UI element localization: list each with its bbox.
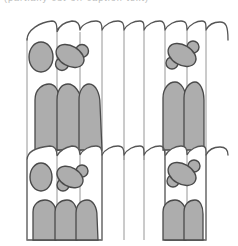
top-left-column-2 xyxy=(57,84,81,150)
bottom-row xyxy=(27,146,228,240)
top-row xyxy=(27,21,228,160)
top-right-column-1 xyxy=(163,82,186,150)
bottom-right-column-1 xyxy=(163,200,186,240)
top-left-oval-body xyxy=(29,42,53,72)
bottom-left-oval-body xyxy=(30,163,52,191)
bottom-left-column-3 xyxy=(76,200,98,240)
top-left-column-1 xyxy=(35,84,59,150)
cell-diagram xyxy=(0,0,238,246)
top-left-column-3 xyxy=(79,84,102,150)
bottom-right-column-2 xyxy=(184,200,203,240)
bottom-left-column-2 xyxy=(55,200,77,240)
top-right-column-2 xyxy=(184,82,204,150)
bottom-left-column-1 xyxy=(33,200,56,240)
